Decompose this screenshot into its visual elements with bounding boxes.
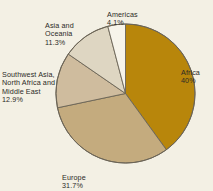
pie-label-africa: Africa 40% — [181, 60, 213, 94]
pie-label-asia-oceania: Asia and Oceania 11.3% — [45, 13, 89, 56]
pie-label-africa-value: 40% — [181, 77, 213, 86]
pie-chart: Americas 4.1% Asia and Oceania 11.3% Sou… — [0, 0, 213, 191]
pie-label-southwest-asia-name: Southwest Asia, North Africa and Middle … — [2, 70, 55, 96]
pie-label-southwest-asia: Southwest Asia, North Africa and Middle … — [2, 62, 64, 114]
pie-label-southwest-asia-value: 12.9% — [2, 96, 64, 105]
pie-label-asia-oceania-name: Asia and Oceania — [45, 21, 74, 39]
pie-label-europe: Europe 31.7% — [62, 165, 118, 191]
pie-label-americas-value: 4.1% — [107, 19, 157, 28]
pie-label-europe-value: 31.7% — [62, 182, 118, 191]
pie-label-asia-oceania-value: 11.3% — [45, 39, 89, 48]
pie-label-americas: Americas 4.1% — [107, 2, 157, 36]
